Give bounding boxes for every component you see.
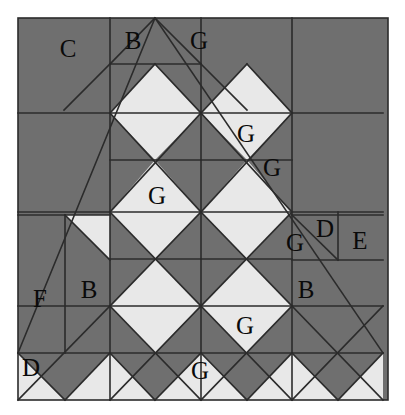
quilt-diagram: C B G G G G D E G F B B G D G: [0, 0, 405, 415]
piece-C-block: [18, 18, 110, 113]
quilt-pattern-graphic: [0, 0, 405, 415]
piece-topright-b: [292, 18, 383, 113]
piece-right-r1: [292, 113, 383, 212]
